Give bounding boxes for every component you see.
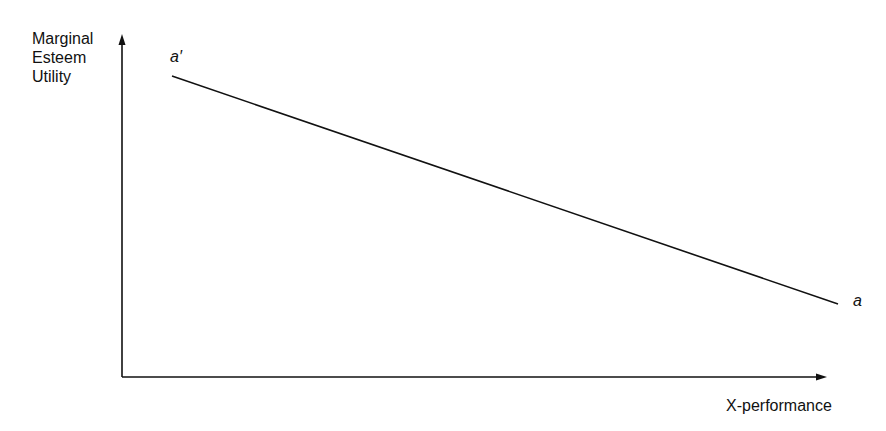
y-axis-arrow-icon [119, 34, 126, 45]
y-axis-label-line-3: Utility [32, 67, 93, 86]
y-axis-label-line-2: Esteem [32, 48, 93, 67]
marginal-esteem-utility-line [172, 76, 838, 304]
y-axis-label-line-1: Marginal [32, 29, 93, 48]
line-end-label: a [853, 292, 862, 310]
diagram-canvas [0, 0, 886, 431]
x-axis-label: X-performance [726, 397, 832, 415]
line-start-label: a′ [170, 48, 182, 66]
y-axis-label: Marginal Esteem Utility [32, 29, 93, 86]
x-axis-arrow-icon [816, 374, 827, 381]
